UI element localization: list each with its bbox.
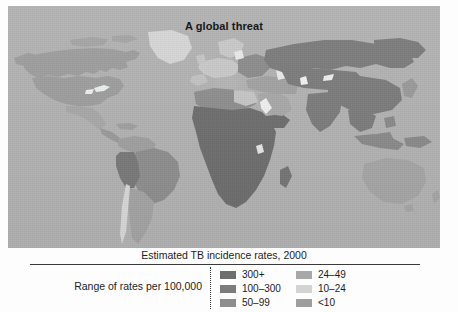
legend-swatch-100-300 xyxy=(220,285,236,293)
legend-item-label: 100–300 xyxy=(242,283,281,294)
tb-incidence-map-figure: A global threat Estimated TB incidence r… xyxy=(0,0,458,312)
world-map-graphic xyxy=(8,6,440,248)
legend-vertical-divider xyxy=(210,267,211,309)
map-legend: Estimated TB incidence rates, 2000 Range… xyxy=(8,249,440,309)
legend-item-label: <10 xyxy=(318,297,335,308)
map-title: A global threat xyxy=(8,20,440,32)
scan-tone-overlay xyxy=(8,6,440,248)
legend-item: 10–24 xyxy=(296,282,346,295)
legend-swatch-50-99 xyxy=(220,299,236,307)
legend-item: 50–99 xyxy=(220,296,281,309)
legend-body: Range of rates per 100,000 300+ 100–300 … xyxy=(8,267,440,309)
legend-item-label: 50–99 xyxy=(242,297,270,308)
legend-swatch-300-plus xyxy=(220,271,236,279)
legend-horizontal-rule xyxy=(30,264,420,265)
legend-item: 24–49 xyxy=(296,268,346,281)
legend-column-right: 24–49 10–24 <10 xyxy=(296,268,346,310)
legend-swatch-24-49 xyxy=(296,271,312,279)
legend-item: 100–300 xyxy=(220,282,281,295)
legend-caption: Estimated TB incidence rates, 2000 xyxy=(8,249,440,261)
world-map-panel: A global threat xyxy=(8,6,440,248)
legend-column-left: 300+ 100–300 50–99 xyxy=(220,268,281,310)
legend-item: 300+ xyxy=(220,268,281,281)
legend-item: <10 xyxy=(296,296,346,309)
legend-item-label: 10–24 xyxy=(318,283,346,294)
legend-swatch-under-10 xyxy=(296,299,312,307)
legend-swatch-10-24 xyxy=(296,285,312,293)
legend-range-label: Range of rates per 100,000 xyxy=(22,280,202,292)
legend-item-label: 24–49 xyxy=(318,269,346,280)
legend-item-label: 300+ xyxy=(242,269,265,280)
